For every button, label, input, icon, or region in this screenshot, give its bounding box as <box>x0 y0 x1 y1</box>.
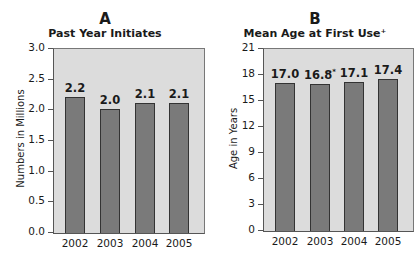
x-tick-label: 2005 <box>368 235 408 247</box>
value-label: 2.0 <box>90 93 130 107</box>
y-tick-mark <box>48 201 53 202</box>
bar-2005 <box>169 103 189 233</box>
y-tick-label: 0 <box>225 223 255 235</box>
chart-title: Mean Age at First Use⁺ <box>210 27 420 40</box>
x-tick-label: 2002 <box>55 237 95 249</box>
bar-2004 <box>135 103 155 233</box>
value-label: 2.1 <box>159 87 199 101</box>
panel-letter: A <box>0 10 210 28</box>
x-tick-label: 2005 <box>159 237 199 249</box>
y-tick-label: 0.0 <box>15 225 45 237</box>
y-tick-mark <box>48 171 53 172</box>
y-tick-mark <box>258 48 263 49</box>
bar-2003 <box>100 109 120 233</box>
y-tick-mark <box>48 48 53 49</box>
y-tick-label: 2.5 <box>15 72 45 84</box>
y-tick-label: 6 <box>225 171 255 183</box>
y-tick-label: 21 <box>225 41 255 53</box>
value-label: 17.4 <box>368 63 408 77</box>
y-tick-label: 0.5 <box>15 194 45 206</box>
y-tick-label: 3.0 <box>15 41 45 53</box>
bar-2002 <box>65 97 85 233</box>
y-tick-mark <box>258 152 263 153</box>
y-tick-label: 2.0 <box>15 102 45 114</box>
y-tick-label: 12 <box>225 119 255 131</box>
y-tick-mark <box>258 100 263 101</box>
y-tick-label: 3 <box>225 197 255 209</box>
y-tick-mark <box>258 126 263 127</box>
panel-b: B Mean Age at First Use⁺ Age in Years 03… <box>210 0 420 256</box>
y-tick-mark <box>258 74 263 75</box>
value-label: 2.2 <box>55 81 95 95</box>
value-label: 17.0 <box>265 67 305 81</box>
y-tick-label: 1.5 <box>15 133 45 145</box>
bar-2004 <box>344 82 364 231</box>
chart-title: Past Year Initiates <box>0 27 210 40</box>
y-tick-mark <box>258 230 263 231</box>
y-tick-label: 15 <box>225 93 255 105</box>
y-tick-mark <box>48 232 53 233</box>
y-tick-mark <box>258 178 263 179</box>
bar-2005 <box>378 79 398 231</box>
y-tick-label: 18 <box>225 67 255 79</box>
y-tick-mark <box>48 140 53 141</box>
y-tick-mark <box>48 79 53 80</box>
bar-2002 <box>275 83 295 231</box>
y-tick-label: 1.0 <box>15 164 45 176</box>
x-tick-label: 2002 <box>265 235 305 247</box>
y-tick-label: 9 <box>225 145 255 157</box>
x-tick-label: 2003 <box>90 237 130 249</box>
y-axis-label: Age in Years <box>228 94 239 184</box>
bar-2003 <box>310 84 330 231</box>
panel-letter: B <box>210 10 420 28</box>
y-tick-mark <box>48 109 53 110</box>
y-tick-mark <box>258 204 263 205</box>
panel-a: A Past Year Initiates Numbers in Million… <box>0 0 210 256</box>
